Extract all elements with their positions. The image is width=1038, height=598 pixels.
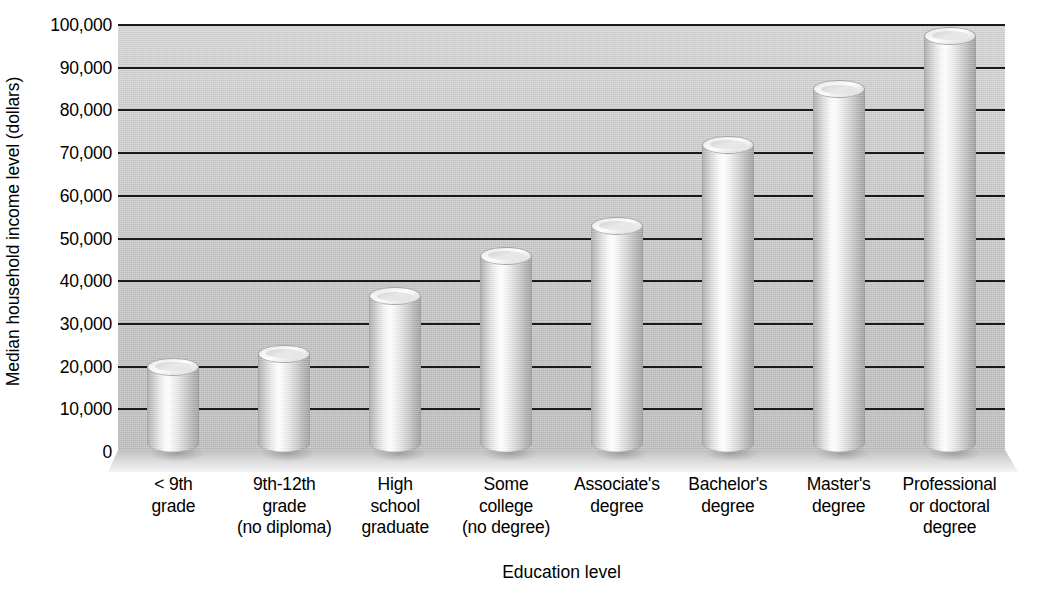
y-axis-tick-label: 70,000 [60,143,112,164]
x-axis-tick-label-line: Associate's [557,474,678,496]
x-axis-tick-label-line: school [335,496,456,518]
y-axis-tick-label: 50,000 [60,228,112,249]
x-axis-tick-labels: < 9thgrade9th-12thgrade(no diploma)Highs… [118,474,1005,560]
y-axis-tick-label: 80,000 [60,100,112,121]
bar [369,287,421,452]
x-axis-tick-label-line: < 9th [113,474,234,496]
y-axis-tick-label: 100,000 [50,15,112,36]
bar [702,136,754,452]
bar-body [258,354,310,452]
y-axis-tick-label: 0 [102,442,112,463]
x-axis-tick-label-line: degree [557,496,678,518]
x-axis-tick-label: < 9thgrade [113,474,234,517]
bar-top-ellipse [924,27,976,45]
x-axis-tick-label-line: college [446,496,567,518]
x-axis-tick-label-line: (no diploma) [224,517,345,539]
x-axis-tick-label: 9th-12thgrade(no diploma) [224,474,345,539]
bar-body [813,89,865,452]
bar-top-ellipse [813,80,865,98]
bar-body [591,226,643,452]
x-axis-tick-label: Somecollege(no degree) [446,474,567,539]
bar [813,80,865,452]
x-axis-tick-label: Bachelor'sdegree [667,474,788,517]
y-axis-tick-label: 60,000 [60,185,112,206]
y-axis-tick-labels: 100,00090,00080,00070,00060,00050,00040,… [28,0,118,462]
bars-layer [118,0,1005,472]
x-axis-tick-label-line: Professional [889,474,1010,496]
bar [591,217,643,452]
bar-top-ellipse [480,247,532,265]
x-axis-tick-label-line: (no degree) [446,517,567,539]
x-axis-tick-label-line: High [335,474,456,496]
bar-top-ellipse [702,136,754,154]
x-axis-tick-label-line: 9th-12th [224,474,345,496]
bar [258,345,310,452]
y-axis-title: Median household income level (dollars) [0,0,28,462]
bar-top-ellipse [147,358,199,376]
x-axis-tick-label-line: degree [889,517,1010,539]
bar-body [147,367,199,452]
x-axis-title: Education level [118,562,1005,583]
bar-body [480,256,532,452]
x-axis-tick-label-line: degree [667,496,788,518]
x-axis-tick-label-line: or doctoral [889,496,1010,518]
x-axis-tick-label: Associate'sdegree [557,474,678,517]
y-axis-tick-label: 90,000 [60,57,112,78]
x-axis-tick-label-line: grade [113,496,234,518]
bar-body [369,296,421,452]
y-axis-tick-label: 20,000 [60,356,112,377]
bar-top-ellipse [591,217,643,235]
bar [924,27,976,452]
y-axis-tick-label: 10,000 [60,399,112,420]
y-axis-tick-label: 30,000 [60,313,112,334]
y-axis-title-text: Median household income level (dollars) [4,76,25,385]
x-axis-tick-label-line: Bachelor's [667,474,788,496]
x-axis-tick-label-line: Some [446,474,567,496]
x-axis-tick-label: Highschoolgraduate [335,474,456,539]
x-axis-tick-label: Master'sdegree [778,474,899,517]
x-axis-tick-label-line: graduate [335,517,456,539]
bar-body [924,36,976,452]
y-axis-tick-label: 40,000 [60,271,112,292]
chart-container: Median household income level (dollars) … [0,0,1038,598]
bar [147,358,199,452]
x-axis-tick-label-line: grade [224,496,345,518]
x-axis-tick-label-line: degree [778,496,899,518]
bar [480,247,532,452]
x-axis-tick-label: Professionalor doctoraldegree [889,474,1010,539]
bar-top-ellipse [258,345,310,363]
x-axis-tick-label-line: Master's [778,474,899,496]
bar-body [702,145,754,452]
